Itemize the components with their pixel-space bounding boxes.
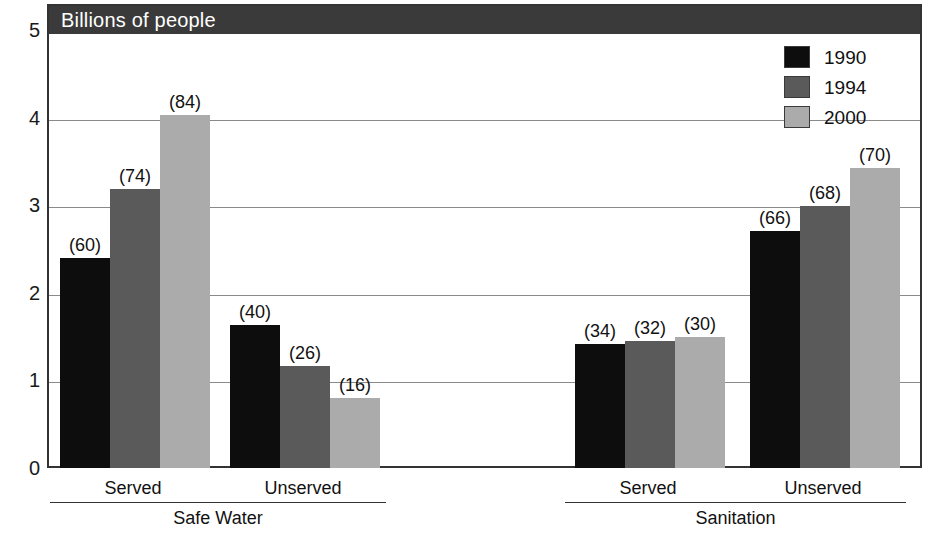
bar bbox=[330, 398, 380, 468]
bar bbox=[750, 231, 800, 468]
x-axis-subgroup-label: Served bbox=[578, 478, 718, 498]
x-axis-supergroup-rule bbox=[50, 502, 386, 503]
x-axis-subgroup-label: Unserved bbox=[753, 478, 893, 498]
bar-value-label: (84) bbox=[154, 93, 216, 111]
bar-value-label: (74) bbox=[104, 167, 166, 185]
y-axis-tick-label: 2 bbox=[2, 283, 40, 303]
bar bbox=[160, 115, 210, 468]
x-axis-supergroup-rule bbox=[565, 502, 906, 503]
bar-value-label: (40) bbox=[224, 303, 286, 321]
y-axis-tick-label: 3 bbox=[2, 195, 40, 215]
y-axis: 543210 bbox=[0, 0, 40, 534]
bar bbox=[110, 189, 160, 468]
bar-value-label: (30) bbox=[669, 315, 731, 333]
y-axis-tick-label: 4 bbox=[2, 108, 40, 128]
bar-value-label: (68) bbox=[794, 184, 856, 202]
x-axis-subgroup-label: Served bbox=[63, 478, 203, 498]
bar bbox=[60, 258, 110, 468]
x-axis-supergroup-label: Sanitation bbox=[636, 508, 836, 528]
y-axis-tick-label: 5 bbox=[2, 20, 40, 40]
chart-figure: 543210 Billions of people 199019942000 (… bbox=[0, 0, 937, 534]
bar bbox=[230, 325, 280, 468]
bar-value-label: (70) bbox=[844, 146, 906, 164]
bars-layer: (60)(74)(84)(40)(26)(16)(34)(32)(30)(66)… bbox=[49, 6, 920, 466]
bar-value-label: (26) bbox=[274, 344, 336, 362]
x-axis: ServedUnservedServedUnservedSafe WaterSa… bbox=[0, 470, 937, 534]
x-axis-subgroup-label: Unserved bbox=[233, 478, 373, 498]
bar-value-label: (16) bbox=[324, 376, 386, 394]
bar-value-label: (66) bbox=[744, 209, 806, 227]
y-axis-tick-label: 1 bbox=[2, 370, 40, 390]
bar bbox=[575, 344, 625, 468]
bar bbox=[675, 337, 725, 468]
bar bbox=[625, 341, 675, 468]
x-axis-supergroup-label: Safe Water bbox=[118, 508, 318, 528]
plot-area: Billions of people 199019942000 (60)(74)… bbox=[47, 4, 922, 468]
bar bbox=[800, 206, 850, 468]
bar-value-label: (60) bbox=[54, 236, 116, 254]
bar bbox=[280, 366, 330, 468]
bar bbox=[850, 168, 900, 468]
